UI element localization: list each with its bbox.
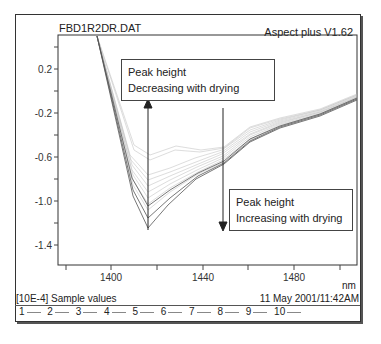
legend-line (112, 312, 126, 313)
y-axis (54, 47, 58, 245)
legend-line (168, 312, 182, 313)
annotation-increasing-line2: Increasing with drying (236, 210, 346, 226)
timestamp: 11 May 2001/11:42AM (260, 293, 359, 304)
y-tick-labels: 0.2 -0.2 -0.6 -1.0 -1.4 (35, 64, 53, 251)
annotation-increasing-line1: Peak height (236, 194, 346, 210)
y-tick--0.2: -0.2 (35, 108, 53, 119)
legend-item-9: 9 (246, 306, 252, 317)
legend-line (225, 312, 239, 313)
y-tick--1.0: -1.0 (35, 196, 53, 207)
legend-line (27, 312, 41, 313)
arrow-down-icon (219, 108, 227, 231)
x-tick-1400: 1400 (100, 272, 123, 283)
legend-item-7: 7 (189, 306, 195, 317)
x-tick-1440: 1440 (192, 272, 215, 283)
legend-item-8: 8 (217, 306, 223, 317)
legend-item-2: 2 (47, 306, 53, 317)
annotation-increasing: Peak height Increasing with drying (229, 189, 353, 231)
legend-line (140, 312, 154, 313)
x-tick-1480: 1480 (283, 272, 306, 283)
y-tick-0.2: 0.2 (38, 64, 52, 75)
annotation-decreasing-line2: Decreasing with drying (128, 80, 268, 96)
annotation-decreasing: Peak height Decreasing with drying (121, 59, 275, 101)
legend-line (253, 312, 267, 313)
legend-line (287, 312, 301, 313)
sample-values-label: [10E-4] Sample values (16, 293, 117, 304)
legend: 1 2 3 4 5 6 7 8 9 10 (15, 305, 360, 320)
legend-item-10: 10 (274, 306, 285, 317)
y-tick--1.4: -1.4 (35, 240, 53, 251)
x-tick-labels: 1400 1440 1480 (100, 272, 306, 283)
annotation-decreasing-line1: Peak height (128, 64, 268, 80)
legend-line (55, 312, 69, 313)
legend-item-1: 1 (19, 306, 25, 317)
x-unit-label: nm (342, 280, 356, 291)
legend-item-3: 3 (76, 306, 82, 317)
legend-line (83, 312, 97, 313)
arrow-up-icon (144, 99, 152, 230)
y-tick--0.6: -0.6 (35, 152, 53, 163)
x-axis (66, 265, 340, 270)
legend-item-4: 4 (104, 306, 110, 317)
legend-line (197, 312, 211, 313)
legend-item-5: 5 (132, 306, 138, 317)
legend-item-6: 6 (161, 306, 167, 317)
